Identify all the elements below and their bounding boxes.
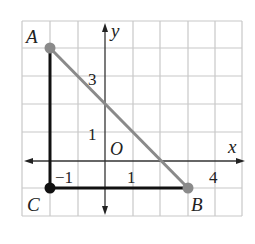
segment-AB [50,48,188,188]
y-axis-label: y [109,20,120,41]
point-C [45,183,56,194]
point-C-label: C [27,194,40,215]
point-B [183,183,194,194]
tick-label-x-neg1: −1 [55,168,73,187]
x-axis-arrow-left-icon [24,158,33,164]
x-axis-label: x [227,136,237,157]
x-axis-arrow-right-icon [236,158,245,164]
x-axis [24,158,245,164]
coordinate-plane: A B C x y O 3 1 −1 1 4 [0,0,255,244]
point-A-label: A [24,26,38,47]
tick-label-y-3: 3 [88,70,97,89]
point-A [45,43,56,54]
tick-label-x-4: 4 [209,168,218,187]
y-axis [102,23,108,215]
origin-label: O [110,139,123,159]
y-axis-arrow-up-icon [102,23,108,32]
point-B-label: B [191,194,203,215]
tick-label-y-1: 1 [88,125,97,144]
tick-label-x-1: 1 [127,168,136,187]
y-axis-arrow-down-icon [102,206,108,215]
